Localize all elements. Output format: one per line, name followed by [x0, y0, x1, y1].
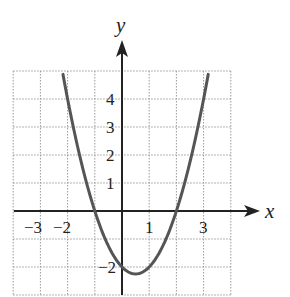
axes [14, 40, 260, 295]
parabola-curve [63, 74, 208, 274]
x-axis-label: x [264, 199, 275, 223]
x-tick-label: 3 [199, 218, 208, 237]
parabola-graph: x y −3 −2 1 3 4 3 2 1 −2 [0, 0, 290, 297]
x-tick-label: −2 [53, 218, 71, 237]
y-axis-label: y [114, 13, 126, 37]
x-tick-label: −3 [24, 218, 42, 237]
y-tick-label: 4 [106, 90, 115, 109]
y-tick-label: −2 [98, 258, 116, 277]
y-tick-label: 1 [106, 174, 115, 193]
y-tick-label: 3 [106, 118, 115, 137]
y-tick-label: 2 [106, 146, 115, 165]
x-tick-label: 1 [145, 218, 154, 237]
